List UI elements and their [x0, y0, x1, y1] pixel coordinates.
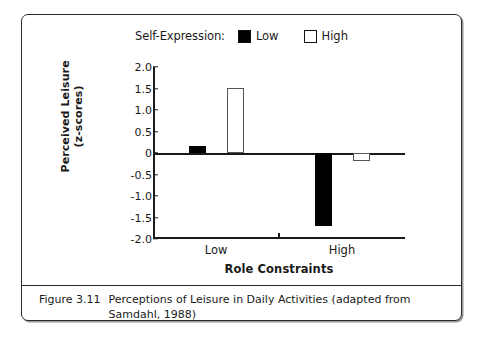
y-axis-tick-label: -1.0	[131, 190, 152, 203]
y-axis-tick-mark	[153, 88, 158, 89]
x-axis-title: Role Constraints	[153, 262, 405, 276]
bar-high-low	[315, 153, 332, 226]
y-axis-tick-label: 0	[145, 147, 152, 160]
y-axis-tick-label: 1.0	[135, 104, 153, 117]
y-axis-title-line2: (z-scores)	[72, 85, 85, 147]
figure-caption: Figure 3.11 Perceptions of Leisure in Da…	[39, 293, 447, 323]
caption-text: Perceptions of Leisure in Daily Activiti…	[109, 293, 447, 323]
y-axis-tick-label: 0.5	[135, 125, 153, 138]
y-axis-tick-mark	[153, 66, 158, 67]
bar-low-high	[227, 88, 244, 153]
y-axis-tick-mark	[153, 195, 158, 196]
y-axis-tick-mark	[153, 152, 158, 153]
category-divider-tick	[278, 233, 279, 239]
x-axis-tick-label: Low	[205, 243, 228, 257]
y-axis-tick-label: -1.5	[131, 211, 152, 224]
y-axis-tick-label: 2.0	[135, 61, 153, 74]
y-axis-tick-label: -2.0	[131, 233, 152, 246]
y-axis-tick-mark	[153, 238, 158, 239]
chart-axes	[153, 67, 405, 239]
x-axis-tick-label: High	[329, 243, 355, 257]
y-axis-title: Perceived Leisure (z-scores)	[59, 46, 86, 186]
chart-plot-area: Perceived Leisure (z-scores) 2.01.51.00.…	[22, 15, 461, 320]
caption-number: Figure 3.11	[39, 293, 101, 323]
bar-high-high	[353, 153, 370, 161]
y-axis-tick-label: 1.5	[135, 82, 153, 95]
y-axis-tick-mark	[153, 131, 158, 132]
y-axis-tick-labels: 2.01.51.00.50-0.5-1.0-1.5-2.0	[110, 67, 152, 239]
y-axis-title-line1: Perceived Leisure	[59, 60, 72, 172]
y-axis-tick-mark	[153, 174, 158, 175]
caption-divider	[22, 285, 461, 286]
bar-low-low	[189, 146, 206, 153]
y-axis-tick-label: -0.5	[131, 168, 152, 181]
y-axis-tick-mark	[153, 217, 158, 218]
figure-frame: Self-Expression: Low High Perceived Leis…	[21, 14, 462, 321]
y-axis-tick-mark	[153, 109, 158, 110]
